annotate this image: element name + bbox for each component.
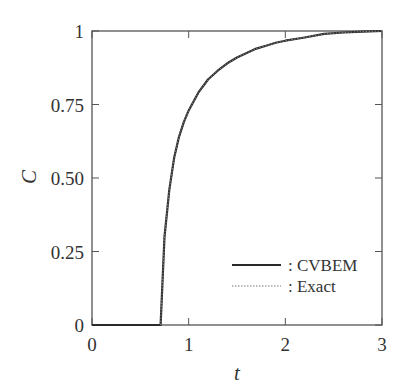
data-series [92, 31, 382, 325]
y-tick-label: 0.75 [51, 95, 84, 116]
chart: 012300.250.500.751 C t : CVBEM : Exact [0, 0, 405, 387]
y-tick-label: 0.50 [51, 168, 84, 189]
y-axis-title: C [17, 169, 41, 184]
x-axis-title: t [234, 361, 241, 385]
y-tick-label: 0 [75, 315, 85, 336]
series-exact-line [161, 31, 382, 325]
x-tick-label: 0 [87, 334, 97, 355]
y-tick-label: 1 [75, 21, 85, 42]
x-tick-label: 2 [281, 334, 291, 355]
legend-label-cvbem: : CVBEM [288, 256, 357, 275]
series-cvbem-line [92, 31, 382, 325]
axes-frame [92, 31, 382, 325]
plot-border [92, 31, 382, 325]
x-tick-label: 1 [184, 334, 194, 355]
legend-label-exact: : Exact [288, 277, 336, 296]
legend: : CVBEM : Exact [232, 256, 357, 296]
x-tick-label: 3 [377, 334, 387, 355]
y-tick-label: 0.25 [51, 242, 84, 263]
